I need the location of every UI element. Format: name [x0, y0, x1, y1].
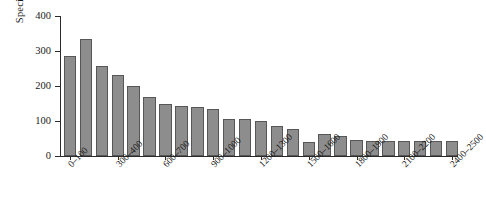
bar — [255, 121, 267, 156]
bar — [112, 75, 124, 156]
bars-container — [60, 16, 458, 156]
y-tick-label-200: 200 — [35, 79, 51, 92]
plot-area: 0100200300400 — [60, 16, 458, 156]
x-axis-ticks: 0–100300–400600–700900–10001200–13001500… — [60, 157, 465, 213]
bar — [143, 97, 155, 157]
bar — [159, 104, 171, 156]
bar — [239, 119, 251, 156]
bar — [64, 56, 76, 156]
y-axis-label: Species richness — [14, 0, 28, 42]
bar — [207, 109, 219, 156]
y-tick-label-0: 0 — [46, 149, 51, 162]
y-tick-label-400: 400 — [35, 9, 51, 22]
bar — [80, 39, 92, 156]
bar — [191, 107, 203, 156]
y-tick-label-300: 300 — [35, 44, 51, 57]
bar — [96, 66, 108, 156]
y-tick-label-100: 100 — [35, 114, 51, 127]
